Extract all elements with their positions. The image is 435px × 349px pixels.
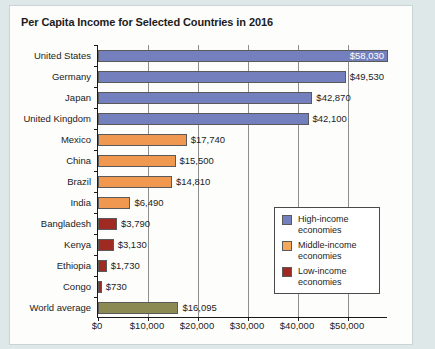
x-axis-tick-label: $10,000	[130, 320, 164, 331]
category-label: Bangladesh	[9, 219, 97, 229]
bar	[98, 155, 176, 167]
bar-value-label: $49,530	[350, 71, 384, 83]
x-axis-tick-label: $30,000	[230, 320, 264, 331]
bar-value-label: $3,130	[118, 239, 147, 251]
bar	[98, 218, 117, 230]
bar-value-label: $6,490	[134, 197, 163, 209]
scanned-page: Per Capita Income for Selected Countries…	[0, 0, 435, 349]
bar	[98, 50, 388, 62]
y-axis-tick	[94, 171, 98, 172]
bar	[98, 92, 312, 104]
bar	[98, 176, 172, 188]
category-label: Congo	[9, 282, 97, 292]
bar-value-label: $42,870	[316, 92, 350, 104]
category-label: China	[9, 156, 97, 166]
category-label: Kenya	[9, 240, 97, 250]
bar	[98, 260, 107, 272]
bar-value-label: $58,030	[350, 50, 384, 62]
x-axis-tick-label: $40,000	[280, 320, 314, 331]
legend-swatch	[282, 215, 292, 225]
bar-value-label: $17,740	[191, 134, 225, 146]
x-axis-tick-label: $0	[92, 320, 103, 331]
category-label: World average	[9, 303, 97, 313]
y-axis-tick	[94, 45, 98, 46]
x-axis-tick-label: $50,000	[330, 320, 364, 331]
bar-value-label: $42,100	[313, 113, 347, 125]
y-axis-tick	[94, 150, 98, 151]
legend-item: Low-income economies	[282, 266, 373, 287]
bar	[98, 71, 346, 83]
y-axis-tick	[94, 255, 98, 256]
bar	[98, 239, 114, 251]
y-axis-tick	[94, 213, 98, 214]
bar-value-label: $1,730	[111, 260, 140, 272]
gridline	[248, 45, 249, 317]
category-label: Ethiopia	[9, 261, 97, 271]
category-label: United Kingdom	[9, 114, 97, 124]
bar-value-label: $16,095	[182, 302, 216, 314]
figure-card: Per Capita Income for Selected Countries…	[9, 5, 413, 345]
category-label: United States	[9, 51, 97, 61]
bar	[98, 302, 178, 314]
bar	[98, 113, 309, 125]
category-label: Mexico	[9, 135, 97, 145]
legend-item: Middle-income economies	[282, 240, 373, 261]
bar-value-label: $3,790	[121, 218, 150, 230]
legend-label: High-income economies	[298, 214, 373, 235]
category-label: Japan	[9, 93, 97, 103]
legend-item: High-income economies	[282, 214, 373, 235]
x-axis-tick-label: $20,000	[180, 320, 214, 331]
legend-swatch	[282, 241, 292, 251]
y-axis-tick	[94, 276, 98, 277]
page-title: Per Capita Income for Selected Countries…	[21, 16, 273, 28]
chart-legend: High-income economiesMiddle-income econo…	[274, 207, 380, 294]
category-label: Germany	[9, 72, 97, 82]
y-axis-tick	[94, 297, 98, 298]
y-axis-tick	[94, 234, 98, 235]
bar	[98, 134, 187, 146]
chart-container: United StatesGermanyJapanUnited KingdomM…	[10, 39, 413, 339]
legend-swatch	[282, 267, 292, 277]
y-axis-tick	[94, 108, 98, 109]
y-axis-tick	[94, 192, 98, 193]
legend-label: Low-income economies	[298, 266, 373, 287]
bar-value-label: $14,810	[176, 176, 210, 188]
bar-value-label: $730	[106, 281, 127, 293]
y-axis-tick	[94, 66, 98, 67]
bar-value-label: $15,500	[180, 155, 214, 167]
category-axis-labels: United StatesGermanyJapanUnited KingdomM…	[10, 45, 97, 318]
y-axis-tick	[94, 87, 98, 88]
y-axis-tick	[94, 129, 98, 130]
bar	[98, 197, 130, 209]
x-axis-tick-labels: $0$10,000$20,000$30,000$40,000$50,000	[97, 320, 397, 336]
category-label: Brazil	[9, 177, 97, 187]
legend-label: Middle-income economies	[298, 240, 373, 261]
bar	[98, 281, 102, 293]
category-label: India	[9, 198, 97, 208]
